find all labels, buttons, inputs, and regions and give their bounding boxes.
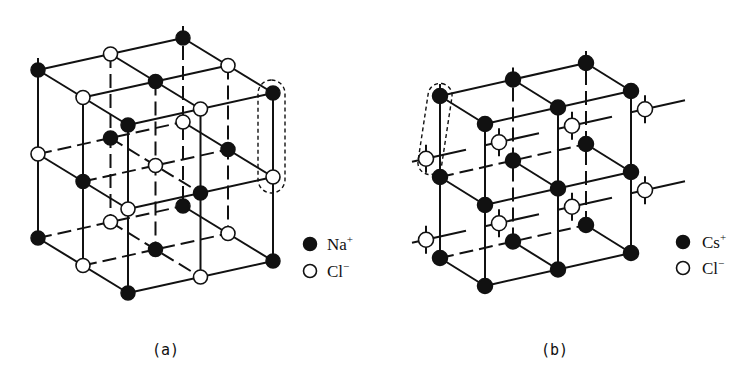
cl-ion (419, 232, 434, 247)
cs-ion (506, 234, 521, 249)
cs-ion (506, 72, 521, 87)
cl-ion (492, 135, 507, 150)
nacl-legend: Na+ Cl− (304, 233, 354, 281)
cl-legend-label-b: Cl− (702, 257, 724, 278)
panel-label-b: (b) (541, 341, 568, 359)
cl-ion (76, 259, 90, 273)
cscl-bonds (412, 51, 685, 286)
cscl-legend: Cs+ Cl− (677, 231, 727, 278)
cl-ion (221, 59, 235, 73)
cl-ion (492, 216, 507, 231)
cs-legend-label: Cs+ (702, 231, 726, 252)
cs-ion (433, 251, 448, 266)
na-ion (176, 31, 190, 45)
cl-ion (194, 102, 208, 116)
na-ion (76, 175, 90, 189)
cl-ion (266, 170, 280, 184)
na-ion (266, 254, 280, 268)
na-ion (266, 86, 280, 100)
na-ion (31, 63, 45, 77)
cs-legend-filled-circle-icon (677, 236, 690, 249)
cs-ion (478, 117, 493, 132)
cs-ion (579, 218, 594, 233)
cs-ion (579, 56, 594, 71)
cs-ion (551, 262, 566, 277)
cl-ion (419, 151, 434, 166)
cs-ion (579, 137, 594, 152)
cs-ion (433, 89, 448, 104)
cs-ion (506, 153, 521, 168)
cl-ion (121, 202, 135, 216)
na-ion (194, 186, 208, 200)
nacl-atoms (31, 31, 280, 300)
cs-ion (551, 181, 566, 196)
cl-ion (176, 115, 190, 129)
na-ion (221, 143, 235, 157)
cl-ion (194, 270, 208, 284)
cs-ion (624, 165, 639, 180)
cs-ion (433, 170, 448, 185)
na-legend-label: Na+ (327, 233, 353, 254)
cl-ion (221, 227, 235, 241)
cl-ion (565, 199, 580, 214)
cl-legend-label-a: Cl− (327, 260, 349, 281)
na-ion (31, 231, 45, 245)
cl-legend-open-circle-icon-b (677, 262, 690, 275)
cl-ion (565, 118, 580, 133)
na-ion (176, 199, 190, 213)
cl-legend-open-circle-icon (304, 265, 317, 278)
cs-ion (624, 246, 639, 261)
cl-ion (638, 102, 653, 117)
cscl-lattice-panel (412, 51, 685, 294)
cl-ion (149, 159, 163, 173)
na-ion (149, 243, 163, 257)
nacl-lattice-panel (31, 26, 285, 300)
na-ion (149, 75, 163, 89)
cs-ion (478, 198, 493, 213)
cl-ion (104, 215, 118, 229)
cl-ion (638, 183, 653, 198)
panel-label-a: (a) (152, 341, 179, 359)
na-ion (121, 286, 135, 300)
cl-ion (104, 47, 118, 61)
cl-ion (76, 91, 90, 105)
cs-ion (478, 279, 493, 294)
cs-ion (551, 100, 566, 115)
crystal-lattice-diagram: Na+ Cl− Cs+ Cl− (a) (b) (0, 0, 753, 377)
na-legend-filled-circle-icon (304, 238, 317, 251)
cs-ion (624, 84, 639, 99)
na-ion (121, 118, 135, 132)
na-ion (104, 131, 118, 145)
cl-ion (31, 147, 45, 161)
